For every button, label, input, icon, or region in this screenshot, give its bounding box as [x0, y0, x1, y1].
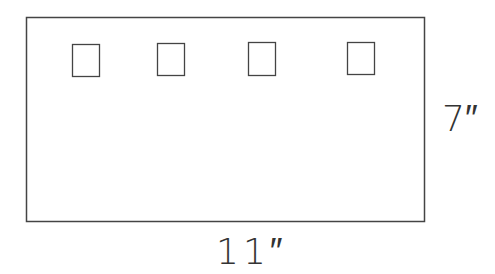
small-square-3	[249, 43, 276, 76]
small-square-4	[348, 43, 375, 75]
width-label: 11″	[216, 231, 287, 272]
outer-rectangle	[27, 18, 425, 222]
small-square-1	[73, 45, 100, 77]
diagram-canvas: 7″ 11″	[0, 0, 495, 274]
small-square-2	[158, 44, 185, 76]
height-label: 7″	[442, 98, 478, 139]
